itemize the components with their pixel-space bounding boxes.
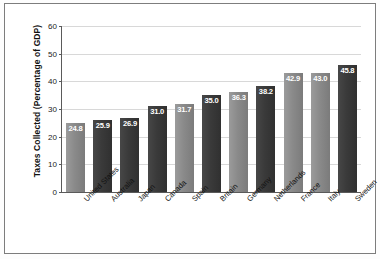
bar: 31.7 (175, 104, 194, 192)
y-tick-label: 50 (48, 49, 57, 58)
x-axis-label: Netherlands (272, 197, 278, 203)
y-tick-label: 10 (48, 160, 57, 169)
x-axis-label: Sweden (353, 197, 359, 203)
bar-series: 24.825.926.931.031.735.036.338.242.943.0… (62, 26, 361, 192)
y-tick-label: 30 (48, 105, 57, 114)
bar-value-label: 36.3 (229, 93, 248, 102)
bar: 24.8 (66, 123, 85, 192)
x-axis-label: Canada (163, 197, 169, 203)
bar-value-label: 42.9 (284, 74, 303, 83)
bar-value-label: 26.9 (120, 119, 139, 128)
y-tick-label: 0 (53, 188, 57, 197)
x-axis-label: France (299, 197, 305, 203)
bar-value-label: 45.8 (338, 66, 357, 75)
x-axis-label: Germany (245, 197, 251, 203)
x-axis-label: Italy (326, 197, 332, 203)
bar: 36.3 (229, 92, 248, 192)
x-axis-label: Spain (190, 197, 196, 203)
x-axis-label: United States (82, 197, 88, 203)
bar: 45.8 (338, 65, 357, 192)
y-tick-mark (59, 192, 63, 193)
y-tick-label: 60 (48, 22, 57, 31)
bar-value-label: 31.0 (148, 107, 167, 116)
bar-value-label: 24.8 (66, 124, 85, 133)
plot-area: 0102030405060 24.825.926.931.031.735.036… (61, 26, 361, 193)
y-tick-label: 40 (48, 77, 57, 86)
x-axis-label: Japan (136, 197, 142, 203)
x-axis-label: Australia (109, 197, 115, 203)
x-axis-label: Britain (218, 197, 224, 203)
y-axis-title: Taxes Collected (Percentage of GDP) (32, 1, 42, 201)
bar-value-label: 35.0 (202, 96, 221, 105)
bar-value-label: 31.7 (175, 105, 194, 114)
chart-screenshot: Taxes Collected (Percentage of GDP) 0102… (0, 0, 380, 259)
bar: 35.0 (202, 95, 221, 192)
bar: 31.0 (148, 106, 167, 192)
bar-value-label: 25.9 (93, 121, 112, 130)
bar: 43.0 (311, 73, 330, 192)
y-tick-label: 20 (48, 132, 57, 141)
chart-frame: Taxes Collected (Percentage of GDP) 0102… (4, 3, 376, 254)
bar-value-label: 38.2 (256, 87, 275, 96)
bar-value-label: 43.0 (311, 74, 330, 83)
